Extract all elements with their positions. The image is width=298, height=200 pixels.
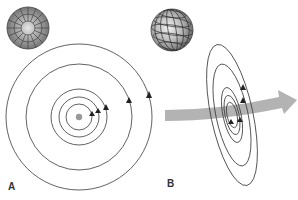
diagram-canvas [0, 0, 298, 200]
panel-label-a: A [8, 181, 15, 192]
center-dot [76, 114, 82, 120]
gray-flow-arrow [165, 90, 297, 121]
panel-label-b: B [167, 178, 174, 189]
sphere-oblique-view-icon [151, 6, 194, 53]
sphere-pole-view-icon [7, 7, 49, 49]
direction-arrow-icons [89, 91, 152, 116]
